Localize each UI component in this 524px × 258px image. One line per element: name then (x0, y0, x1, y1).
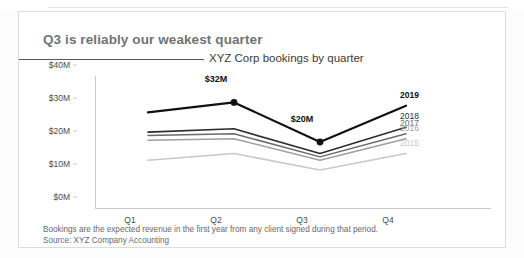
y-axis-tick-10: $10M (19, 159, 70, 169)
chart-card: Q3 is reliably our weakest quarter XYZ C… (18, 11, 506, 248)
x-axis-tick-Q4: Q4 (382, 215, 393, 225)
x-axis-tick-Q3: Q3 (296, 215, 307, 225)
series-label-2019: 2019 (400, 90, 419, 100)
x-axis-line (95, 208, 491, 209)
clipped-top-strip (0, 0, 524, 9)
data-point-marker-Q3 (317, 139, 324, 146)
series-label-2016: 2016 (400, 123, 419, 133)
y-axis-tick-30: $30M (19, 93, 70, 103)
data-label-Q3: $20M (291, 114, 314, 124)
y-axis-tick-20: $20M (19, 126, 70, 136)
y-axis-tick-0: $0M (19, 192, 70, 202)
data-label-Q2: $32M (205, 74, 228, 84)
footnote-line-1: Bookings are the expected revenue in the… (43, 225, 378, 234)
y-axis-tick-mark-40 (73, 65, 77, 66)
y-axis-tick-mark-0 (73, 197, 77, 198)
line-series-2015 (148, 154, 406, 171)
footnote-line-2: Source: XYZ Company Accounting (43, 236, 169, 245)
plot-area (95, 76, 439, 208)
y-axis-tick-mark-20 (73, 131, 77, 132)
y-axis-tick-mark-30 (73, 98, 77, 99)
chart-subtitle: XYZ Corp bookings by quarter (209, 52, 364, 64)
line-series-2019 (148, 102, 406, 142)
x-axis-tick-Q1: Q1 (124, 215, 135, 225)
line-series-group (95, 76, 439, 208)
data-point-marker-Q2 (231, 99, 238, 106)
line-series-2017 (148, 134, 406, 157)
y-axis-tick-40: $40M (19, 60, 70, 70)
page-title: Q3 is reliably our weakest quarter (43, 32, 263, 47)
x-axis-tick-Q2: Q2 (210, 215, 221, 225)
chart-card-root: Q3 is reliably our weakest quarter XYZ C… (0, 0, 524, 258)
series-label-2015: 2015 (400, 138, 419, 148)
clipped-top-rule (48, 7, 508, 8)
y-axis-tick-mark-10 (73, 164, 77, 165)
